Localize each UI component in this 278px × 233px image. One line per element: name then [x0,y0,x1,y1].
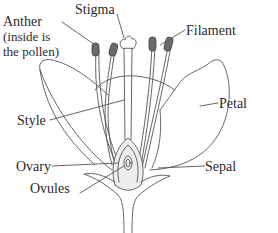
anther-note-line2: the pollen) [3,44,59,59]
label-filament: Filament [186,23,236,38]
style [124,48,132,140]
anther-3 [149,37,156,51]
anther-note-line1: (inside is [3,29,59,44]
anther-2 [108,42,118,56]
label-ovules: Ovules [30,181,70,196]
label-petal: Petal [219,96,247,111]
sepal-right [139,175,170,195]
label-stigma: Stigma [75,2,115,17]
label-ovary: Ovary [16,159,51,174]
anther-label: Anther [3,14,59,29]
anther-1 [92,43,99,56]
left-petal [40,59,112,170]
label-style: Style [17,113,46,128]
label-anther: Anther (inside is the pollen) [3,14,59,59]
stigma [120,36,136,48]
label-sepal: Sepal [205,159,236,174]
ovary [113,138,143,190]
anther-4 [163,36,173,51]
